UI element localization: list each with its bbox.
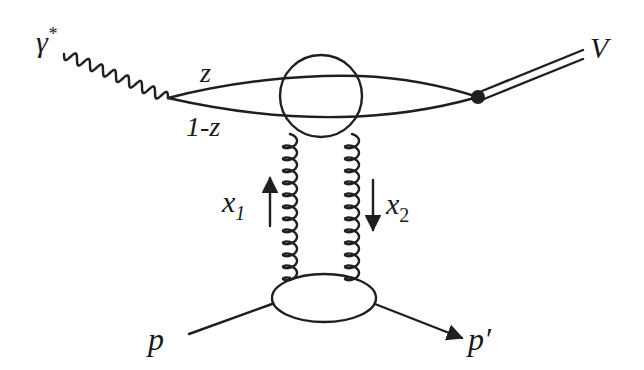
proton-out-line [375, 304, 462, 338]
vector-meson-line [482, 50, 583, 99]
photon-label: γ* [36, 24, 57, 58]
gluon-left-label: x1 [221, 185, 245, 224]
proton-in-label: p [146, 321, 164, 357]
photon-line [64, 53, 168, 98]
meson-vertex-dot [471, 90, 485, 104]
gluon-right [345, 134, 359, 280]
feynman-diagram: γ* z 1-z V x1 x2 p p′ [0, 0, 644, 370]
quark-line-upper [168, 76, 478, 98]
gluon-left [283, 134, 297, 280]
vector-meson-label: V [590, 31, 612, 64]
quark-upper-label: z [199, 57, 211, 88]
proton-in-line [189, 304, 272, 334]
proton-out-label: p′ [466, 321, 492, 357]
gluon-right-label: x2 [385, 187, 409, 226]
quark-loop-blob [280, 55, 362, 137]
quark-lower-label: 1-z [186, 111, 220, 142]
proton-blob [272, 274, 376, 322]
